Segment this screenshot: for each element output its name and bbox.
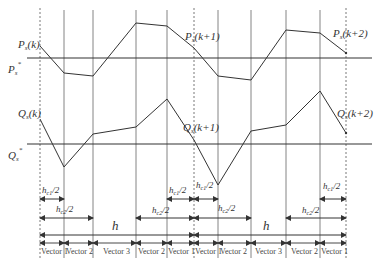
hc2-label: hc2/2	[152, 205, 170, 216]
ps-trajectory	[40, 23, 346, 80]
ps-k1-label: Ps(k+1)	[184, 30, 220, 44]
h-label: h	[112, 218, 119, 233]
switching-sequence-diagram: Ps(k) Ps* Ps(k+1) Ps(k+2) Qs(k) Qs* Qs(k…	[0, 0, 375, 265]
qs-reference-label: Qs*	[8, 146, 23, 163]
qs-k1-label: Qs(k+1)	[183, 121, 219, 135]
vector-label: Vector 2	[66, 247, 93, 256]
hc1-label: hc1/2	[169, 185, 187, 196]
hc2-label: hc2/2	[218, 203, 236, 214]
vector-label: Vector 1	[168, 247, 195, 256]
vector-label: Vector 2	[138, 247, 165, 256]
vector-label: Vector 2	[291, 247, 318, 256]
ps-reference-label: Ps*	[7, 60, 21, 77]
vector-label: Vector 1	[195, 247, 222, 256]
ps-k2-label: Ps(k+2)	[332, 27, 368, 41]
ps-k-label: Ps(k)	[17, 38, 40, 52]
hc1-label: hc1/2	[196, 180, 214, 191]
hc2-label: hc2/2	[56, 204, 74, 215]
vector-label: Vector 3	[103, 247, 130, 256]
qs-k-label: Qs(k)	[18, 107, 41, 121]
vector-label: Vector 1	[41, 247, 68, 256]
h-label: h	[263, 218, 270, 233]
hc1-label: hc1/2	[323, 181, 341, 192]
hc2-label: hc2/2	[302, 205, 320, 216]
vector-label: Vector 2	[220, 247, 247, 256]
vector-label: Vector 3	[255, 247, 282, 256]
qs-trajectory	[40, 91, 346, 185]
vector-label: Vector 1	[321, 247, 348, 256]
qs-k2-label: Qs(k+2)	[337, 107, 373, 121]
hc1-label: hc1/2	[42, 185, 60, 196]
